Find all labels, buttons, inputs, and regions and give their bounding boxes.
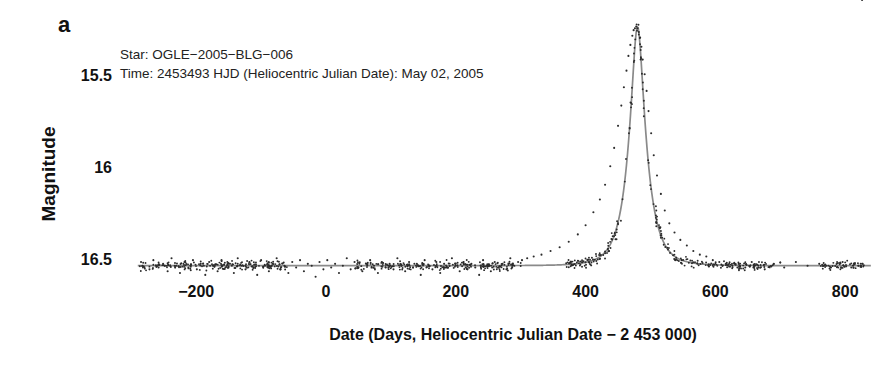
data-point [584, 265, 586, 267]
data-point [763, 266, 765, 268]
data-point [242, 264, 244, 266]
data-point [643, 100, 645, 102]
data-point [145, 269, 147, 271]
data-point [365, 262, 367, 264]
data-point [596, 263, 598, 265]
data-point [167, 264, 169, 266]
data-point [499, 268, 501, 270]
data-point [758, 261, 760, 263]
data-point [577, 233, 579, 235]
data-point [256, 274, 258, 276]
data-point [533, 255, 535, 257]
data-point [842, 265, 844, 267]
data-point [680, 257, 682, 259]
data-point [266, 260, 268, 262]
data-point [330, 266, 332, 268]
data-point [199, 265, 201, 267]
data-point [585, 258, 587, 260]
data-point [559, 246, 561, 248]
data-point [599, 198, 601, 200]
data-point [744, 269, 746, 271]
data-point [520, 265, 522, 267]
photometry-data-points [139, 0, 865, 278]
data-point [167, 270, 169, 272]
data-point [783, 266, 785, 268]
data-point [503, 261, 505, 263]
data-point [237, 263, 239, 265]
data-point [574, 267, 576, 269]
data-point [249, 261, 251, 263]
data-point [597, 259, 599, 261]
data-point [356, 263, 358, 265]
data-point [277, 260, 279, 262]
data-point [495, 263, 497, 265]
data-point [675, 257, 677, 259]
data-point [606, 252, 608, 254]
data-point [595, 255, 597, 257]
data-point [675, 259, 677, 261]
data-point [284, 266, 286, 268]
data-point [639, 43, 641, 45]
data-point [488, 264, 490, 266]
data-point [200, 261, 202, 263]
data-point [174, 262, 176, 264]
data-point [239, 264, 241, 266]
data-point [720, 267, 722, 269]
data-point [412, 267, 414, 269]
data-point [497, 262, 499, 264]
data-point [334, 263, 336, 265]
data-point [660, 237, 662, 239]
data-point [372, 263, 374, 265]
data-point [284, 269, 286, 271]
data-point [684, 265, 686, 267]
data-point [273, 263, 275, 265]
data-point [466, 268, 468, 270]
data-point [311, 265, 313, 267]
data-point [726, 262, 728, 264]
data-point [425, 266, 427, 268]
data-point [744, 266, 746, 268]
data-point [779, 262, 781, 264]
data-point [248, 263, 250, 265]
data-point [231, 263, 233, 265]
data-point [859, 266, 861, 268]
data-point [484, 267, 486, 269]
data-point [466, 259, 468, 261]
data-point [570, 261, 572, 263]
data-point [210, 260, 212, 262]
data-point [417, 264, 419, 266]
data-point [612, 235, 614, 237]
data-point [733, 262, 735, 264]
data-point [638, 33, 640, 35]
data-point [413, 263, 415, 265]
data-point [267, 267, 269, 269]
data-point [470, 266, 472, 268]
data-point [140, 270, 142, 272]
data-point [281, 263, 283, 265]
data-point [581, 259, 583, 261]
data-point [271, 262, 273, 264]
data-point [639, 37, 641, 39]
data-point [648, 110, 650, 112]
data-point [698, 264, 700, 266]
data-point [202, 262, 204, 264]
data-point [307, 263, 309, 265]
data-point [209, 265, 211, 267]
data-point [692, 250, 694, 252]
data-point [642, 88, 644, 90]
data-point [507, 264, 509, 266]
data-point [386, 263, 388, 265]
data-point [714, 264, 716, 266]
data-point [726, 266, 728, 268]
data-point [725, 264, 727, 266]
data-point [440, 268, 442, 270]
data-point [244, 268, 246, 270]
data-point [710, 262, 712, 264]
data-point [822, 268, 824, 270]
data-point [861, 0, 863, 1]
data-point [223, 264, 225, 266]
data-point [739, 266, 741, 268]
data-point [478, 274, 480, 276]
data-point [142, 262, 144, 264]
data-point [631, 96, 633, 98]
